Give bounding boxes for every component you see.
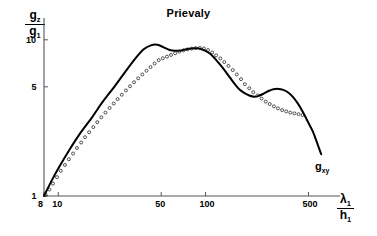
x-tick-label: 50 xyxy=(155,199,165,209)
x-tick-label: 8 xyxy=(38,199,43,209)
x-tick-label: 100 xyxy=(200,199,215,209)
y-tick-label: 10 xyxy=(26,35,36,45)
series-curve-gxy xyxy=(44,44,321,196)
axis-lines xyxy=(44,18,340,196)
x-tick-label: 10 xyxy=(52,199,62,209)
y-tick-label: 1 xyxy=(32,191,37,201)
y-tick-label: 5 xyxy=(32,82,37,92)
series-measured-points xyxy=(44,46,304,196)
axis-ticks xyxy=(44,40,308,196)
x-tick-label: 500 xyxy=(302,199,317,209)
chart-figure: Prievaly gz g1 λ1 h1 gxy 810501005001510 xyxy=(0,0,377,236)
